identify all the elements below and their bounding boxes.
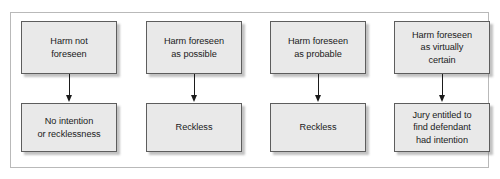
arrow-shaft xyxy=(442,74,443,96)
arrow-head xyxy=(66,95,72,102)
node-label: Reckless xyxy=(297,121,340,133)
diagram-column-1: Harm not foreseen No intention or reckle… xyxy=(21,0,117,179)
node-label: Harm foreseen as possible xyxy=(161,35,227,59)
diagram-column-4: Harm foreseen as virtually certain Jury … xyxy=(394,0,490,179)
arrow-shaft xyxy=(318,74,319,96)
node-harm-foreseen-as-possible[interactable]: Harm foreseen as possible xyxy=(146,21,242,74)
node-harm-foreseen-as-virtually-certain[interactable]: Harm foreseen as virtually certain xyxy=(394,21,490,74)
node-jury-entitled-to-find-intention[interactable]: Jury entitled to find defendant had inte… xyxy=(394,103,490,152)
node-label: Reckless xyxy=(173,121,216,133)
arrow-down-icon xyxy=(68,74,71,103)
arrow-down-icon xyxy=(193,74,196,103)
node-reckless-possible[interactable]: Reckless xyxy=(146,103,242,152)
node-harm-foreseen-as-probable[interactable]: Harm foreseen as probable xyxy=(270,21,366,74)
flowchart-diagram: Harm not foreseen No intention or reckle… xyxy=(0,0,500,179)
node-label: Jury entitled to find defendant had inte… xyxy=(410,109,475,146)
diagram-columns: Harm not foreseen No intention or reckle… xyxy=(0,0,500,179)
node-no-intention-or-recklessness[interactable]: No intention or recklessness xyxy=(21,103,117,152)
arrow-shaft xyxy=(69,74,70,96)
node-label: Harm foreseen as probable xyxy=(285,35,351,59)
arrow-down-icon xyxy=(441,74,444,103)
diagram-column-2: Harm foreseen as possible Reckless xyxy=(146,0,242,179)
arrow-head xyxy=(315,95,321,102)
node-label: Harm foreseen as virtually certain xyxy=(409,29,475,66)
arrow-head xyxy=(191,95,197,102)
node-reckless-probable[interactable]: Reckless xyxy=(270,103,366,152)
arrow-shaft xyxy=(194,74,195,96)
node-harm-not-foreseen[interactable]: Harm not foreseen xyxy=(21,21,117,74)
node-label: Harm not foreseen xyxy=(47,35,90,59)
diagram-column-3: Harm foreseen as probable Reckless xyxy=(270,0,366,179)
arrow-head xyxy=(439,95,445,102)
node-label: No intention or recklessness xyxy=(34,115,103,139)
arrow-down-icon xyxy=(317,74,320,103)
